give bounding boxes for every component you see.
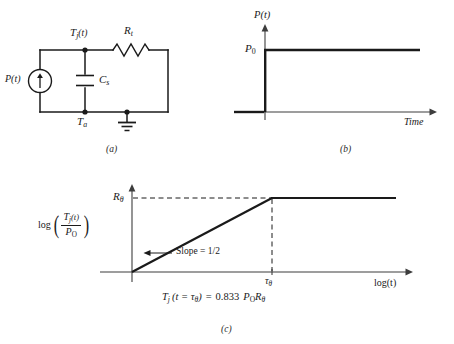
paren-open: (	[53, 215, 58, 236]
panel-tag-a: (a)	[106, 145, 117, 155]
panel-c-xtick-label-tautheta: τθ	[265, 276, 272, 288]
resistor-rt	[113, 44, 149, 56]
panel-b-y-arrowhead	[262, 24, 269, 32]
node-label-tj: Tj(t)	[70, 27, 87, 40]
paren-close: )	[84, 215, 89, 236]
node-dot-tj	[82, 47, 87, 52]
log-argument-fraction: Tj(t) PO	[61, 212, 81, 239]
node-dot-ta	[82, 109, 87, 114]
panel-b-level-label-p0: P0	[245, 43, 256, 56]
panel-c-response-trace	[132, 198, 396, 272]
ground-symbol	[118, 112, 136, 131]
panel-c-axes	[100, 186, 410, 282]
panel-b-x-arrowhead	[430, 109, 438, 116]
current-source-pt	[29, 70, 52, 93]
panel-c-equation: Tj(t = τθ)=0.833PORθ	[162, 292, 265, 303]
capacitor-label-cs: Cs	[99, 74, 109, 87]
trace-rising-slope-half	[132, 198, 272, 272]
panel-c-ytick-label-rtheta: Rθ	[113, 191, 124, 204]
panel-b-step-trace	[234, 50, 420, 112]
slope-annotation-label: Slope = 1/2	[176, 247, 220, 257]
resistor-label-rt: Rt	[124, 25, 133, 38]
panel-b-y-axis-label: P(t)	[254, 10, 270, 21]
node-label-ta: Ta	[77, 116, 87, 129]
capacitor-cs	[76, 76, 94, 86]
panel-c-x-axis-label: log(t)	[374, 278, 396, 288]
panel-c-y-axis-label: log ( Tj(t) PO )	[38, 212, 91, 239]
panel-c-x-arrowhead	[406, 269, 414, 276]
log-operator: log	[38, 220, 51, 230]
panel-tag-b: (b)	[340, 145, 351, 155]
source-label-pt: P(t)	[5, 74, 21, 84]
slope-arrow-head	[144, 250, 151, 256]
panel-b-x-axis-label: Time	[404, 117, 423, 127]
panel-c-y-arrowhead	[129, 184, 136, 192]
figure-root: Tj(t) Rt Cs Ta P(t) (a) P(t) P0 Time (b)…	[0, 0, 454, 344]
panel-tag-c: (c)	[221, 325, 232, 335]
